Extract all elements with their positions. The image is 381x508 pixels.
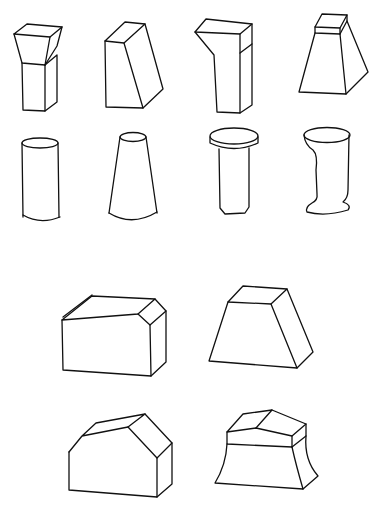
shape-l-shaped-prism xyxy=(195,19,252,113)
shape-house-shaped-prism xyxy=(69,414,172,497)
shape-trapezoidal-prism xyxy=(209,286,313,368)
shape-box-with-chamfered-edge xyxy=(62,295,166,376)
shape-prism-with-flared-top xyxy=(14,24,62,111)
shape-cone-frustum xyxy=(109,133,157,220)
shape-curved-profile-cylinder xyxy=(304,128,350,215)
shape-cylinder-with-disc-cap xyxy=(210,128,258,214)
shape-cylinder xyxy=(22,138,60,221)
shape-oblique-truncated-prism xyxy=(105,22,163,108)
shape-frustum-with-cap-block xyxy=(299,14,368,94)
shape-faceted-cap-flared-block xyxy=(215,410,318,489)
solids-diagram xyxy=(0,0,381,508)
